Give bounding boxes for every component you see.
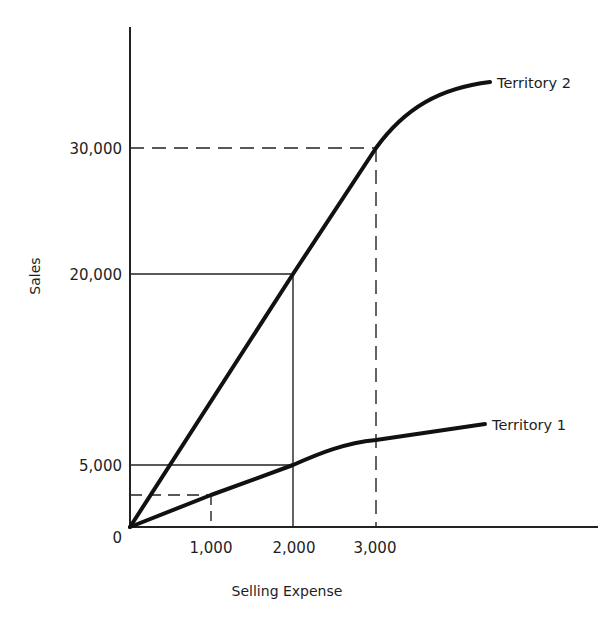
y-tick-0: 0 [112, 529, 122, 547]
series-label-territory-1: Territory 1 [491, 417, 566, 433]
y-tick-5000: 5,000 [79, 457, 122, 475]
y-tick-30000: 30,000 [70, 140, 123, 158]
sales-vs-selling-expense-chart: Territory 2 Territory 1 30,000 20,000 5,… [0, 0, 615, 617]
y-tick-20000: 20,000 [70, 266, 123, 284]
series-label-territory-2: Territory 2 [496, 75, 571, 91]
y-axis-label: Sales [27, 257, 43, 294]
x-tick-3000: 3,000 [354, 539, 397, 557]
series-territory-1-line [130, 424, 485, 527]
x-tick-1000: 1,000 [190, 539, 233, 557]
x-tick-2000: 2,000 [273, 539, 316, 557]
series-territory-2-line [130, 82, 490, 527]
x-axis-label: Selling Expense [232, 583, 343, 599]
